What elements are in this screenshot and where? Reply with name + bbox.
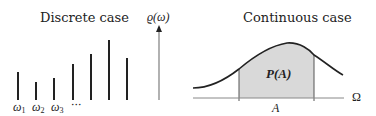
svg-text:ω3: ω3 (51, 100, 63, 115)
arrow-up-icon (156, 25, 162, 32)
space-label: Ω (352, 90, 361, 104)
svg-text:ω2: ω2 (32, 100, 44, 115)
omega-labels: ω1 ω2 ω3 ··· (13, 99, 82, 115)
svg-text:ω1: ω1 (13, 100, 25, 115)
set-label: A (271, 101, 280, 115)
discrete-bars (18, 40, 127, 100)
probability-label: P(A) (266, 66, 291, 81)
density-axis: ϱ(ω) (147, 10, 170, 100)
probability-diagram: Discrete case ω1 ω2 ω3 ··· ϱ(ω) Continuo… (0, 0, 376, 116)
discrete-title: Discrete case (40, 10, 129, 25)
density-label: ϱ(ω) (147, 10, 170, 24)
continuous-title: Continuous case (243, 10, 352, 25)
ellipsis: ··· (71, 99, 82, 112)
